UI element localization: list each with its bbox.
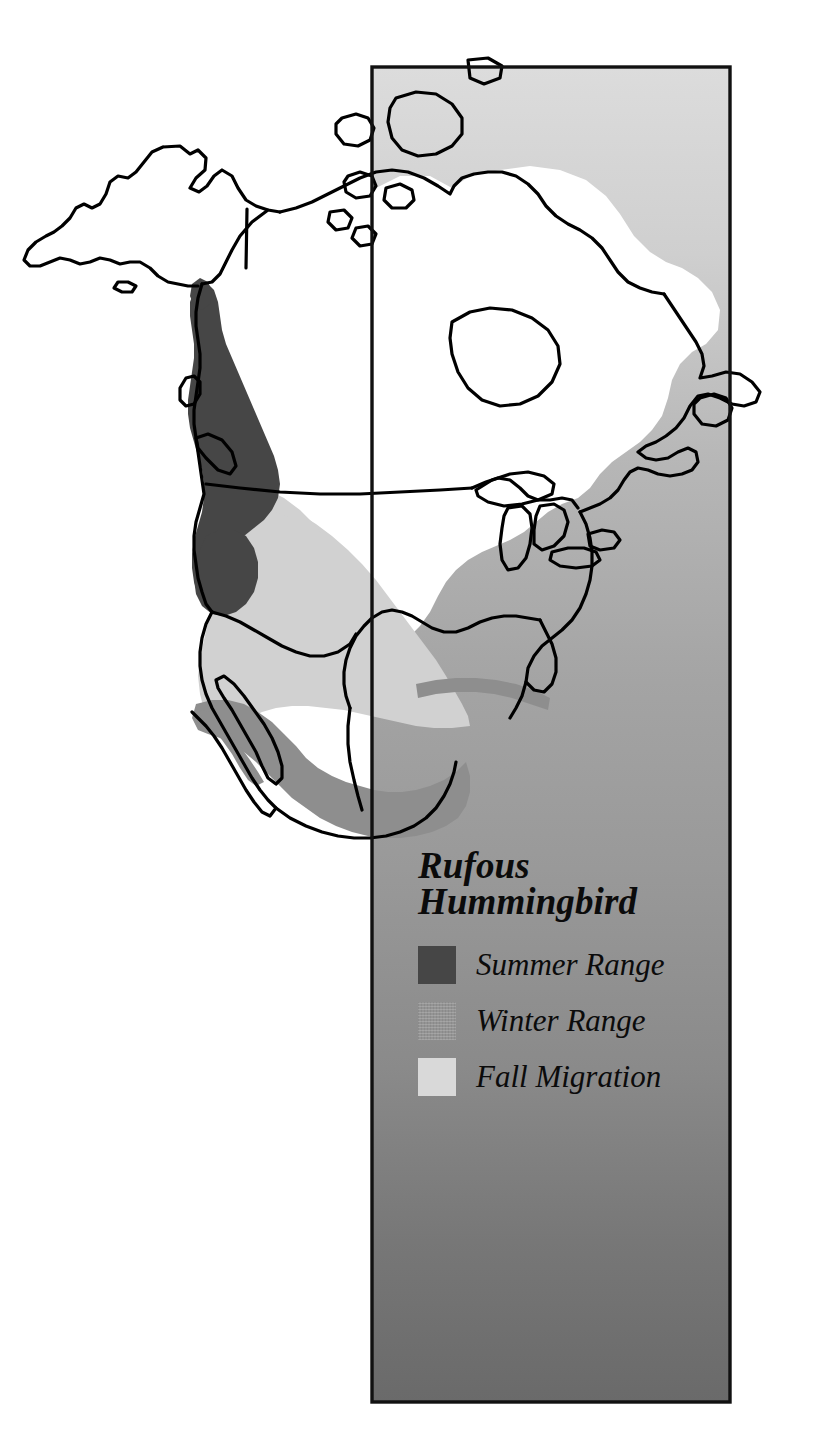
- legend-item-fall-migration: Fall Migration: [418, 1049, 718, 1105]
- summer-range-swatch: [418, 946, 456, 984]
- legend-title: Rufous Hummingbird: [418, 848, 718, 921]
- summer-range-label: Summer Range: [476, 949, 665, 980]
- map-legend: Rufous Hummingbird Summer Range Winter R…: [418, 848, 718, 1105]
- legend-item-summer-range: Summer Range: [418, 937, 718, 993]
- fall-migration-label: Fall Migration: [476, 1061, 661, 1092]
- winter-range-label: Winter Range: [476, 1005, 646, 1036]
- range-map-figure: Rufous Hummingbird Summer Range Winter R…: [0, 0, 828, 1451]
- north-america-range-map: [0, 0, 828, 1451]
- alaska-yukon-border: [246, 209, 247, 268]
- legend-item-winter-range: Winter Range: [418, 993, 718, 1049]
- winter-range-swatch: [418, 1002, 456, 1040]
- fall-migration-swatch: [418, 1058, 456, 1096]
